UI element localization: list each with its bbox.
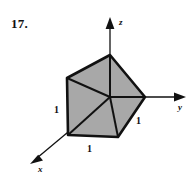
y-axis-label: y xyxy=(177,102,183,112)
figure-root: 17. z y x xyxy=(0,0,192,174)
coordinate-axes-cube-figure: z y x 1 1 1 xyxy=(0,0,192,174)
bottom-edge-label: 1 xyxy=(87,143,92,154)
z-axis-arrowhead xyxy=(106,17,115,29)
z-axis-label: z xyxy=(118,17,123,27)
left-edge-label: 1 xyxy=(54,104,59,115)
right-edge-label: 1 xyxy=(136,115,141,126)
x-axis-label: x xyxy=(37,164,43,174)
x-axis-arrowhead xyxy=(30,155,43,164)
unit-cube xyxy=(67,55,145,137)
y-axis-arrowhead xyxy=(174,93,186,102)
